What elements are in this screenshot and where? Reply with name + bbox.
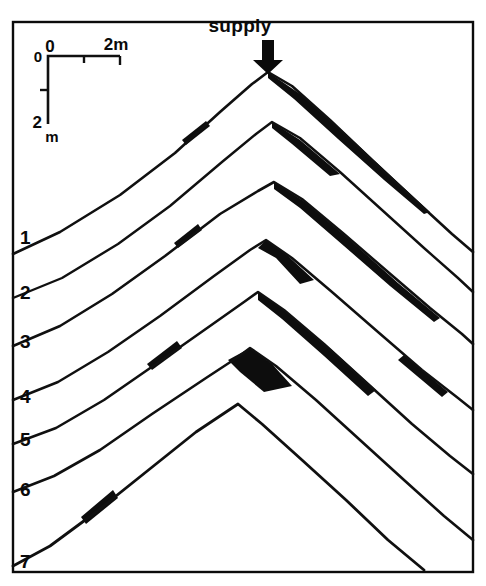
- profile-line-2: [13, 122, 473, 298]
- profile-line-3: [13, 182, 473, 346]
- profile-line-5: [13, 292, 473, 474]
- profile-number-label-6: 6: [20, 479, 31, 500]
- accretion-wedge-4: [398, 355, 448, 397]
- scale-vertical-end-value-label: 2: [33, 113, 42, 132]
- scale-vertical-end-unit-label: m: [45, 128, 58, 145]
- profile-number-label-3: 3: [20, 331, 31, 352]
- cross-section-figure: 0 0 2m 2 m supply 1234567: [0, 0, 486, 586]
- scale-origin-vertical-label: 0: [34, 48, 42, 65]
- profile-number-labels-group: 1234567: [20, 227, 31, 572]
- profile-number-label-7: 7: [20, 551, 31, 572]
- profile-number-label-1: 1: [20, 227, 31, 248]
- scale-bar-line: [48, 56, 120, 124]
- supply-label: supply: [208, 15, 271, 36]
- profile-number-label-2: 2: [20, 282, 31, 303]
- profile-line-1: [13, 72, 473, 254]
- scale-horizontal-end-label: 2m: [104, 35, 129, 54]
- down-arrow-icon: [253, 40, 283, 74]
- profile-lines-group: [13, 72, 473, 570]
- profile-number-label-4: 4: [20, 386, 31, 407]
- scale-origin-horizontal-label: 0: [45, 37, 54, 56]
- supply-marker-group: supply: [208, 15, 283, 74]
- profile-line-7: [13, 404, 424, 570]
- profile-line-6: [13, 348, 473, 540]
- scale-bar-group: 0 0 2m 2 m: [33, 35, 129, 145]
- profile-number-label-5: 5: [20, 429, 31, 450]
- accretion-wedge-4: [258, 240, 314, 284]
